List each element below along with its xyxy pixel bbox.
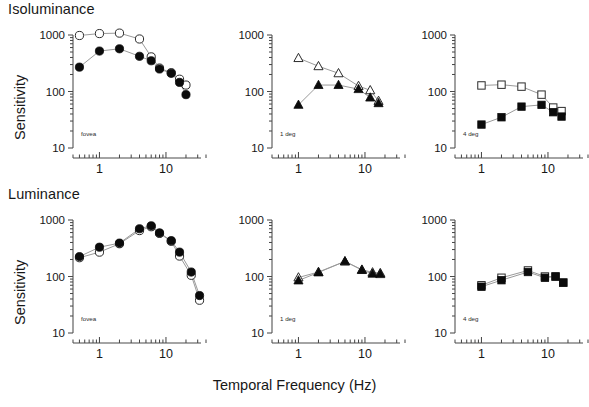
data-point-filled-square bbox=[478, 283, 485, 290]
row-title-luminance: Luminance bbox=[8, 186, 80, 202]
data-point-filled-circle bbox=[167, 69, 175, 77]
y-axis-tick-label: 100 bbox=[428, 271, 447, 283]
x-axis-tick-label: 1 bbox=[295, 347, 302, 361]
figure-canvas: Isoluminance Luminance Sensitivity Sensi… bbox=[0, 0, 589, 407]
y-axis-tick-label: 100 bbox=[428, 86, 447, 98]
y-axis-tick-label: 100 bbox=[245, 271, 264, 283]
data-point-filled-circle bbox=[115, 45, 123, 53]
x-axis-title: Temporal Frequency (Hz) bbox=[0, 377, 589, 393]
panel-eccentricity-note: 4 deg bbox=[463, 130, 479, 137]
data-point-filled-square bbox=[552, 273, 559, 280]
panel-isoluminance-1deg: 1010010001101 deg bbox=[238, 29, 405, 176]
y-axis-tick-label: 1000 bbox=[421, 29, 447, 41]
data-point-filled-square bbox=[498, 277, 505, 284]
row-title-isoluminance: Isoluminance bbox=[8, 1, 95, 17]
data-point-open-circle bbox=[75, 31, 83, 39]
plot-area-group: 101001000110fovea1010010001101 deg101001… bbox=[0, 0, 589, 407]
x-axis-tick-label: 10 bbox=[358, 162, 372, 176]
y-axis-tick-label: 10 bbox=[251, 142, 264, 154]
series-line-open-circle bbox=[79, 227, 199, 301]
data-point-open-square bbox=[518, 83, 525, 90]
data-point-filled-circle bbox=[95, 47, 103, 55]
data-point-open-circle bbox=[115, 29, 123, 37]
y-axis-tick-label: 100 bbox=[46, 271, 65, 283]
x-axis-tick-label: 10 bbox=[159, 162, 173, 176]
x-axis-tick-label: 1 bbox=[478, 347, 485, 361]
data-point-open-triangle bbox=[314, 61, 323, 69]
panel-luminance-1deg: 1010010001101 deg bbox=[238, 214, 405, 361]
data-point-filled-circle bbox=[75, 253, 83, 261]
data-point-filled-square bbox=[550, 109, 557, 116]
data-point-filled-circle bbox=[155, 65, 163, 73]
data-point-filled-circle bbox=[135, 225, 143, 233]
panel-eccentricity-note: 4 deg bbox=[463, 315, 479, 322]
y-axis-tick-label: 10 bbox=[434, 142, 447, 154]
panel-luminance-fovea: 101001000110fovea bbox=[39, 214, 206, 361]
x-axis-tick-label: 10 bbox=[541, 162, 555, 176]
data-point-filled-square bbox=[518, 103, 525, 110]
y-axis-title-bottom: Sensitivity bbox=[12, 260, 28, 325]
y-axis-tick-label: 10 bbox=[251, 327, 264, 339]
data-point-filled-circle bbox=[195, 291, 203, 299]
data-point-open-square bbox=[538, 91, 545, 98]
x-axis-tick-label: 10 bbox=[541, 347, 555, 361]
panel-isoluminance-4deg: 1010010001104 deg bbox=[421, 29, 588, 176]
panel-isoluminance-fovea: 101001000110fovea bbox=[39, 29, 206, 176]
x-axis-tick-label: 1 bbox=[478, 162, 485, 176]
data-point-filled-square bbox=[560, 279, 567, 286]
series-line-filled-circle bbox=[79, 226, 199, 296]
y-axis-tick-label: 1000 bbox=[238, 214, 264, 226]
x-axis-tick-label: 10 bbox=[358, 347, 372, 361]
data-point-filled-triangle bbox=[314, 268, 323, 276]
data-point-filled-square bbox=[498, 114, 505, 121]
data-point-open-square bbox=[498, 81, 505, 88]
x-axis-tick-label: 1 bbox=[295, 162, 302, 176]
data-point-filled-circle bbox=[147, 57, 155, 65]
panel-eccentricity-note: fovea bbox=[81, 130, 97, 137]
y-axis-tick-label: 10 bbox=[434, 327, 447, 339]
data-point-filled-circle bbox=[95, 243, 103, 251]
data-point-filled-triangle bbox=[314, 80, 323, 88]
data-point-filled-square bbox=[538, 101, 545, 108]
x-axis-tick-label: 1 bbox=[96, 162, 103, 176]
panel-luminance-4deg: 1010010001104 deg bbox=[421, 214, 588, 361]
y-axis-tick-label: 1000 bbox=[39, 214, 65, 226]
data-point-filled-circle bbox=[167, 237, 175, 245]
y-axis-title-top: Sensitivity bbox=[12, 75, 28, 140]
y-axis-tick-label: 100 bbox=[245, 86, 264, 98]
x-axis-tick-label: 1 bbox=[96, 347, 103, 361]
data-point-filled-circle bbox=[175, 248, 183, 256]
y-axis-tick-label: 1000 bbox=[39, 29, 65, 41]
data-point-filled-square bbox=[558, 113, 565, 120]
data-point-filled-circle bbox=[147, 222, 155, 230]
panel-eccentricity-note: 1 deg bbox=[280, 130, 296, 137]
data-point-filled-circle bbox=[182, 91, 190, 99]
data-point-open-circle bbox=[135, 35, 143, 43]
data-point-filled-square bbox=[541, 274, 548, 281]
data-point-filled-circle bbox=[175, 78, 183, 86]
data-point-filled-circle bbox=[135, 52, 143, 60]
y-axis-tick-label: 10 bbox=[52, 327, 65, 339]
data-point-open-circle bbox=[95, 29, 103, 37]
y-axis-tick-label: 100 bbox=[46, 86, 65, 98]
data-point-filled-circle bbox=[155, 229, 163, 237]
data-point-filled-circle bbox=[115, 239, 123, 247]
data-point-filled-square bbox=[478, 121, 485, 128]
data-point-open-square bbox=[478, 82, 485, 89]
series-line-filled-square bbox=[481, 272, 563, 287]
y-axis-tick-label: 1000 bbox=[421, 214, 447, 226]
panel-eccentricity-note: 1 deg bbox=[280, 315, 296, 322]
y-axis-tick-label: 10 bbox=[52, 142, 65, 154]
data-point-open-triangle bbox=[294, 53, 303, 61]
data-point-filled-triangle bbox=[340, 257, 349, 265]
y-axis-tick-label: 1000 bbox=[238, 29, 264, 41]
panel-eccentricity-note: fovea bbox=[81, 315, 97, 322]
data-point-filled-triangle bbox=[357, 265, 366, 273]
x-axis-tick-label: 10 bbox=[159, 347, 173, 361]
data-point-filled-circle bbox=[187, 268, 195, 276]
data-point-filled-square bbox=[524, 268, 531, 275]
data-point-filled-triangle bbox=[334, 80, 343, 88]
data-point-filled-circle bbox=[75, 63, 83, 71]
